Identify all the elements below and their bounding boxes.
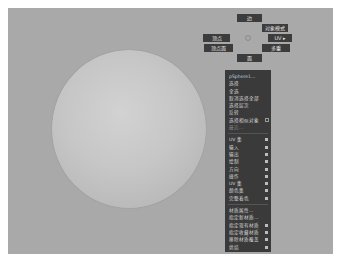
menu-item-assign-favorite-material[interactable]: 指定收藏材质 — [225, 229, 271, 236]
menu-item-uv-sets-top[interactable]: UV 集 — [225, 136, 271, 143]
menu-item-select[interactable]: 选择 — [225, 80, 271, 87]
submenu-arrow-icon — [265, 238, 268, 241]
menu-item-outputs[interactable]: 输出 — [225, 151, 271, 158]
menu-item-invert[interactable]: 反转 — [225, 109, 271, 116]
submenu-arrow-icon — [265, 197, 268, 200]
menu-item-paint[interactable]: 绘制 — [225, 158, 271, 165]
submenu-arrow-icon — [265, 160, 268, 163]
menu-item-full-shading[interactable]: 完整着色 — [225, 195, 271, 202]
menu-item-remove-material-override[interactable]: 移除材质覆盖 — [225, 236, 271, 243]
menu-item-select-hierarchy[interactable]: 选择层次 — [225, 102, 271, 109]
menu-item-assign-existing-material[interactable]: 指定现有材质 — [225, 222, 271, 229]
marking-menu-center-icon — [245, 35, 251, 41]
submenu-arrow-icon — [265, 231, 268, 234]
marking-menu-edge[interactable]: 边 — [237, 14, 262, 22]
marking-menu-face[interactable]: 面 — [237, 54, 262, 62]
submenu-arrow-icon — [265, 138, 268, 141]
menu-item-direction[interactable]: 方向 — [225, 166, 271, 173]
marking-menu-vertex[interactable]: 顶点 — [203, 34, 230, 42]
submenu-arrow-icon — [265, 224, 268, 227]
menu-item-recent: 最近... — [225, 124, 271, 131]
menu-item-uv-sets[interactable]: UV 集 — [225, 180, 271, 187]
3d-viewport[interactable]: 边 对象模式 顶点 UV ▸ 顶点面 多重 面 pSphere1... 选择 全… — [8, 8, 333, 254]
menu-item-inputs[interactable]: 输入 — [225, 144, 271, 151]
menu-divider — [228, 204, 268, 205]
menu-item-deselect-all[interactable]: 取消选择全部 — [225, 95, 271, 102]
object-context-menu: pSphere1... 选择 全选 取消选择全部 选择层次 反转 选择相似对象 … — [225, 70, 271, 252]
menu-item-material-attributes[interactable]: 材质属性... — [225, 207, 271, 214]
submenu-arrow-icon — [265, 153, 268, 156]
submenu-arrow-icon — [265, 175, 268, 178]
option-box-icon[interactable] — [265, 118, 269, 122]
menu-item-color-sets[interactable]: 颜色集 — [225, 187, 271, 194]
sphere-object[interactable] — [52, 50, 206, 208]
marking-menu-vertex-face[interactable]: 顶点面 — [204, 44, 233, 52]
marking-menu-uv[interactable]: UV ▸ — [268, 34, 292, 42]
submenu-arrow-icon — [265, 168, 268, 171]
menu-item-select-similar[interactable]: 选择相似对象 — [225, 117, 271, 124]
marking-menu-multi[interactable]: 多重 — [262, 44, 290, 52]
menu-item-bake[interactable]: 烘焙 — [225, 244, 271, 251]
submenu-arrow-icon — [265, 146, 268, 149]
menu-item-assign-new-material[interactable]: 指定新材质... — [225, 214, 271, 221]
submenu-arrow-icon — [265, 189, 268, 192]
menu-divider — [228, 133, 268, 134]
menu-item-actions[interactable]: 操作 — [225, 173, 271, 180]
menu-item-select-all[interactable]: 全选 — [225, 88, 271, 95]
marking-menu-object-mode[interactable]: 对象模式 — [262, 24, 288, 32]
menu-header-object-name[interactable]: pSphere1... — [225, 73, 271, 80]
submenu-arrow-icon — [265, 182, 268, 185]
submenu-arrow-icon — [265, 246, 268, 249]
